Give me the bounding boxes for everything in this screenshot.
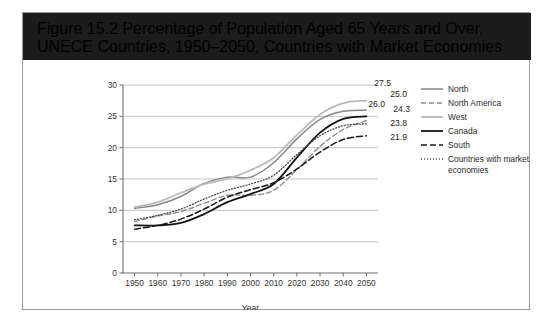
svg-text:5: 5 <box>112 237 117 247</box>
svg-text:1980: 1980 <box>195 278 214 288</box>
svg-text:2050: 2050 <box>357 278 376 288</box>
svg-text:2040: 2040 <box>334 278 353 288</box>
value-label-25-0: 25.0 <box>390 89 407 99</box>
svg-text:1990: 1990 <box>218 278 237 288</box>
value-label-26-0: 26.0 <box>368 99 385 109</box>
chart-plot-area: 051015202530 195019601970198019902000201… <box>23 60 531 310</box>
legend-label-4: South <box>448 140 470 150</box>
line-chart: 051015202530 195019601970198019902000201… <box>23 60 531 310</box>
legend-label-1: North America <box>448 98 501 108</box>
figure-container: Figure 15.2 Percentage of Population Age… <box>22 12 530 310</box>
svg-text:1970: 1970 <box>172 278 191 288</box>
y-tick-labels-group: 051015202530 <box>108 80 118 278</box>
svg-text:15: 15 <box>108 174 118 184</box>
value-label-23-8: 23.8 <box>390 118 407 128</box>
svg-text:2030: 2030 <box>311 278 330 288</box>
svg-text:30: 30 <box>108 80 118 90</box>
x-tick-labels-group: 1950196019701980199020002010202020302040… <box>125 278 376 288</box>
legend-label-2: West <box>448 112 468 122</box>
legend-label-5: Countries with market <box>448 154 530 164</box>
legend-label-6: economies <box>448 165 489 175</box>
value-label-21-9: 21.9 <box>390 132 407 142</box>
svg-text:2010: 2010 <box>264 278 283 288</box>
figure-title-line-2: 1950–2050, Countries with Market Economi… <box>175 38 502 55</box>
svg-text:10: 10 <box>108 205 118 215</box>
chart-legend: NorthNorth AmericaWestCanadaSouthCountri… <box>421 84 530 175</box>
figure-title-bar: Figure 15.2 Percentage of Population Age… <box>23 13 531 60</box>
svg-text:2000: 2000 <box>241 278 260 288</box>
gridlines-group <box>123 85 378 242</box>
value-label-27-5: 27.5 <box>374 78 391 88</box>
svg-text:1950: 1950 <box>125 278 144 288</box>
x-axis-title: Year <box>242 303 260 310</box>
legend-label-0: North <box>448 84 469 94</box>
svg-text:2020: 2020 <box>288 278 307 288</box>
svg-text:25: 25 <box>108 111 118 121</box>
svg-text:20: 20 <box>108 143 118 153</box>
svg-text:0: 0 <box>112 268 117 278</box>
data-series-group <box>135 101 367 229</box>
value-label-24-3: 24.3 <box>393 104 410 114</box>
series-line-south <box>135 136 367 229</box>
legend-label-3: Canada <box>448 126 478 136</box>
svg-text:1960: 1960 <box>148 278 167 288</box>
series-line-countries-with-market-economies <box>135 124 367 220</box>
value-labels-group: 27.525.026.024.323.821.9 <box>368 78 410 142</box>
